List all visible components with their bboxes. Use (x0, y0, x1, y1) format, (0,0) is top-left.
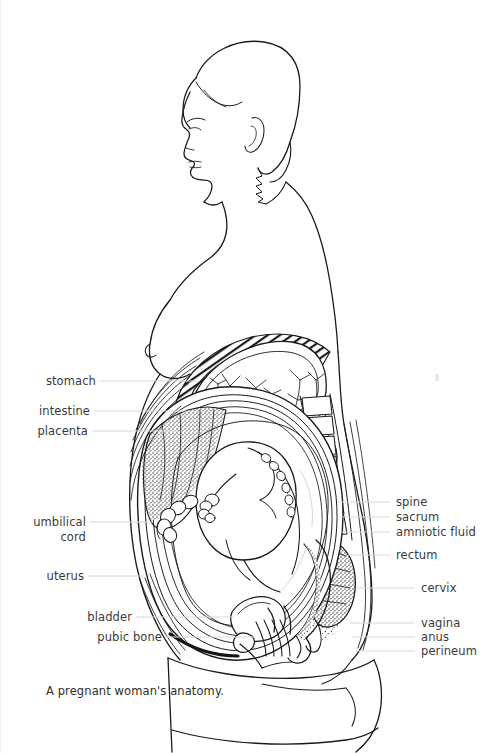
label-sacrum: sacrum (396, 510, 439, 524)
label-rectum: rectum (396, 548, 437, 562)
label-uterus: uterus (0, 569, 84, 583)
figure-page: stomach intestine placenta umbilical cor… (0, 0, 491, 753)
label-perineum: perineum (421, 644, 477, 658)
label-spine: spine (396, 495, 427, 509)
figure-caption: A pregnant woman's anatomy. (46, 684, 224, 698)
label-anus: anus (421, 630, 449, 644)
label-placenta: placenta (0, 424, 88, 438)
label-amniotic-fluid: amniotic fluid (396, 525, 476, 539)
label-bladder: bladder (0, 610, 132, 624)
label-intestine: intestine (0, 404, 90, 418)
label-vagina: vagina (421, 616, 460, 630)
label-stomach: stomach (0, 374, 96, 388)
label-umbilical-cord: umbilical cord (0, 515, 86, 545)
label-umbilical-cord-line2: cord (0, 530, 86, 545)
label-umbilical-cord-line1: umbilical (0, 515, 86, 530)
label-pubic-bone: pubic bone (0, 630, 162, 644)
label-cervix: cervix (421, 581, 457, 595)
scan-artifact (435, 374, 439, 381)
